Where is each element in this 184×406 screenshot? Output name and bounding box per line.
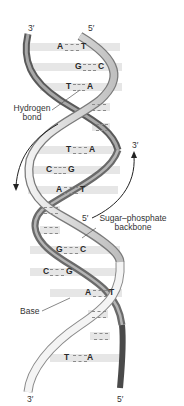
base-letter: C	[98, 62, 104, 71]
base-letter: G	[68, 165, 75, 174]
hydrogen-bond	[94, 333, 108, 340]
hydrogen-bond	[92, 104, 106, 111]
hydrogen-bond	[92, 311, 106, 318]
hydrogen-bond	[64, 247, 78, 254]
backbone-label-line2: backbone	[98, 223, 168, 232]
hydrogen-bond	[54, 167, 66, 174]
hydrogen-bond	[83, 64, 96, 71]
base-letter: T	[109, 288, 114, 297]
hydrogen-bond	[96, 124, 108, 131]
base-letter: C	[80, 245, 86, 254]
base-letter: A	[57, 42, 63, 51]
strand-end-arrow-5prime: 5′	[82, 214, 88, 223]
hydrogen-bond	[65, 44, 79, 51]
base-letter: C	[46, 165, 52, 174]
base-letter: T	[64, 353, 69, 362]
hydrogen-bond	[93, 290, 107, 297]
hydrogen-bond	[73, 84, 85, 91]
hydrogen-bond	[44, 227, 58, 234]
base-letter: T	[80, 185, 85, 194]
base-letter: A	[89, 145, 95, 154]
base-letter: A	[87, 82, 93, 91]
hydrogen-bond-label: Hydrogen bond	[10, 104, 54, 122]
base-letter: A	[56, 185, 62, 194]
arrow-up-icon	[131, 151, 137, 158]
hydrogen-bond	[64, 187, 78, 194]
strand-end-top-left: 3′	[28, 24, 34, 33]
base-letter: C	[43, 267, 49, 276]
hydrogen-bond	[50, 269, 64, 276]
hydrogen-bond-label-line2: bond	[10, 113, 54, 122]
dna-helix-diagram: A T G C T A T A C G A T G C C G A T T A …	[0, 0, 184, 406]
hydrogen-bond	[73, 147, 87, 154]
base-label: Base	[20, 307, 39, 316]
base-letter: A	[87, 353, 93, 362]
base-letter: G	[75, 62, 82, 71]
backbone-label: Sugar–phosphate backbone	[98, 214, 168, 232]
helix-strands	[0, 0, 184, 406]
strand-end-bottom-left: 3′	[27, 395, 33, 404]
base-letter: A	[85, 288, 91, 297]
base-letter: T	[81, 42, 86, 51]
base-letter: G	[66, 267, 73, 276]
arrow-down-icon	[13, 184, 19, 191]
strand-end-bottom-right: 5′	[117, 395, 123, 404]
strand-end-top-right: 5′	[88, 24, 94, 33]
hydrogen-bond	[44, 207, 58, 214]
base-letter: T	[66, 145, 71, 154]
base-letter: T	[66, 82, 71, 91]
base-letter: G	[56, 245, 63, 254]
strand-end-arrow-3prime: 3′	[132, 141, 138, 150]
hydrogen-bond	[73, 355, 87, 362]
